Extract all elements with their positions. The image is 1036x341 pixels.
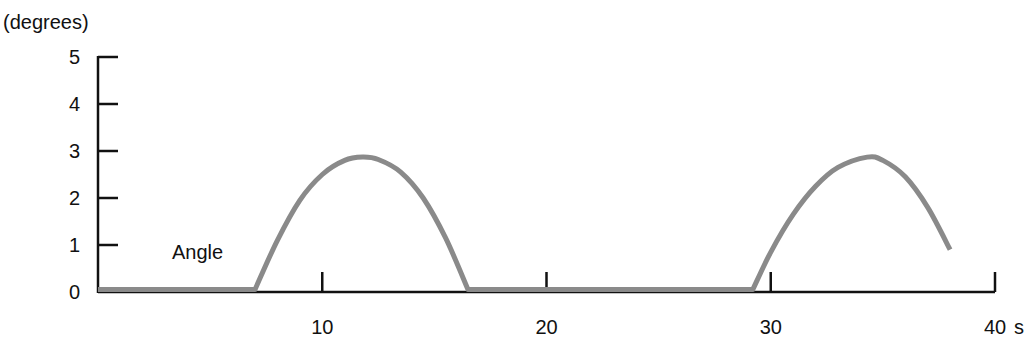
y-tick-label: 4	[60, 94, 80, 114]
data-series	[98, 157, 950, 290]
axes	[98, 56, 995, 293]
x-tick-label: 10	[311, 317, 333, 337]
y-tick-label: 2	[60, 188, 80, 208]
y-tick-label: 0	[60, 282, 80, 302]
series-line-angle	[98, 157, 950, 290]
y-tick-label: 3	[60, 141, 80, 161]
x-tick-label: 30	[760, 317, 782, 337]
y-axis-label: (degrees)	[3, 12, 89, 32]
y-tick-label: 5	[60, 47, 80, 67]
series-annotation-angle: Angle	[172, 242, 223, 262]
angle-chart	[0, 0, 1036, 341]
x-tick-label: 40	[984, 317, 1006, 337]
x-tick-label: 20	[535, 317, 557, 337]
x-axis-unit-label: s	[1014, 317, 1024, 337]
y-tick-label: 1	[60, 235, 80, 255]
